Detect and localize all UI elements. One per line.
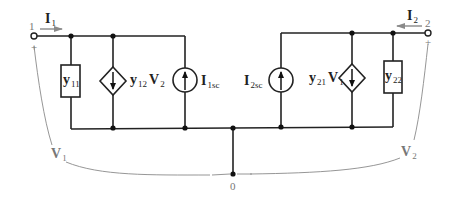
dependent-source-1-label: y12V2 xyxy=(130,73,165,89)
port-2-polarity: + xyxy=(425,37,431,48)
ground-dash-left xyxy=(212,174,230,175)
voltage-v1-label: V1 xyxy=(51,147,67,163)
port-1-polarity: + xyxy=(31,42,37,53)
two-port-circuit-diagram: 1 + 2 + 0 I1 I2 V1 V2 y11 y12V2 I1sc I2s… xyxy=(0,0,457,199)
left-top-wire xyxy=(37,36,185,68)
current-i2-label: I2 xyxy=(407,9,418,25)
current-i1-label: I1 xyxy=(45,12,56,28)
dependent-source-2-label: y21V1 xyxy=(309,71,344,87)
voltage-v2-label: V2 xyxy=(401,145,417,161)
i1sc-label: I1sc xyxy=(201,74,219,90)
circuit-schematic xyxy=(0,0,457,199)
port-2-label: 2 xyxy=(425,18,431,29)
y11-label: y11 xyxy=(63,73,80,89)
ground-label: 0 xyxy=(230,181,236,192)
y22-label: y22 xyxy=(385,69,402,85)
independent-source-1sc xyxy=(173,68,197,128)
independent-source-2sc xyxy=(269,68,293,127)
port-1-terminal xyxy=(31,33,37,39)
i2sc-label: I2sc xyxy=(244,74,262,90)
junction-nodes xyxy=(68,30,395,176)
right-top-wire xyxy=(281,33,425,68)
dependent-source-1 xyxy=(100,36,126,128)
port-1-label: 1 xyxy=(29,21,35,32)
